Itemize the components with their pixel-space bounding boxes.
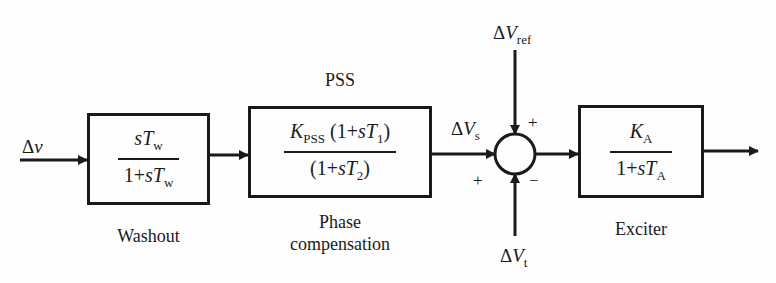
var-V: V [505, 22, 517, 43]
var-T: T [142, 127, 153, 149]
exciter-block: KA 1+sTA [578, 105, 704, 198]
subscript: t [524, 255, 528, 270]
var-V: V [463, 118, 475, 139]
sign-vref: + [528, 113, 538, 133]
paren-close: ) [363, 157, 370, 179]
vs-label: ΔVs [451, 119, 480, 142]
exciter-numerator: KA [624, 120, 659, 151]
var-T: T [366, 120, 377, 142]
pss-numerator: KPSS (1+sT1) [284, 120, 396, 151]
var-T: T [645, 157, 656, 179]
var-T: T [346, 157, 357, 179]
exciter-denominator: 1+sTA [610, 153, 672, 184]
subscript: PSS [303, 131, 325, 146]
sign-vs: + [473, 171, 483, 191]
const-part: 1+ [616, 157, 637, 179]
subscript: ref [517, 32, 531, 47]
pss-block: KPSS (1+sT1) (1+sT2) [248, 106, 432, 198]
speed-symbol: ν [34, 136, 42, 157]
sign-vt: − [529, 171, 539, 191]
subscript: A [643, 131, 652, 146]
pss-denominator: (1+sT2) [304, 153, 376, 184]
delta-symbol: Δ [451, 118, 463, 139]
delta-symbol: Δ [493, 22, 505, 43]
subscript: w [153, 138, 162, 153]
summing-junction [495, 134, 535, 174]
washout-block: sTw 1+sTw [87, 113, 210, 205]
const-part: 1+ [124, 164, 145, 186]
var-s: s [338, 157, 346, 179]
var-s: s [134, 127, 142, 149]
pss-caption-line2: compensation [248, 233, 432, 255]
paren-close: ) [383, 120, 390, 142]
var-s: s [358, 120, 366, 142]
var-s: s [145, 164, 153, 186]
var-K: K [290, 120, 303, 142]
pss-transfer-function: KPSS (1+sT1) (1+sT2) [284, 120, 396, 184]
pss-title: PSS [248, 69, 432, 91]
washout-numerator: sTw [128, 127, 168, 158]
subscript: s [475, 128, 480, 143]
paren-open: (1+ [310, 157, 338, 179]
exciter-transfer-function: KA 1+sTA [610, 120, 672, 184]
pss-caption: Phase compensation [248, 211, 432, 255]
pss-caption-line1: Phase [248, 211, 432, 233]
paren-open: (1+ [325, 120, 358, 142]
var-K: K [630, 120, 643, 142]
vref-label: ΔVref [493, 23, 531, 46]
var-T: T [153, 164, 164, 186]
subscript: A [656, 168, 665, 183]
washout-denominator: 1+sTw [118, 160, 180, 191]
input-label-delta-v: Δν [22, 137, 43, 156]
var-V: V [512, 245, 524, 266]
washout-caption: Washout [87, 225, 210, 247]
washout-transfer-function: sTw 1+sTw [118, 127, 180, 191]
exciter-caption: Exciter [578, 218, 704, 240]
delta-symbol: Δ [500, 245, 512, 266]
subscript: w [164, 175, 173, 190]
vt-label: ΔVt [500, 246, 527, 269]
delta-symbol: Δ [22, 136, 34, 157]
